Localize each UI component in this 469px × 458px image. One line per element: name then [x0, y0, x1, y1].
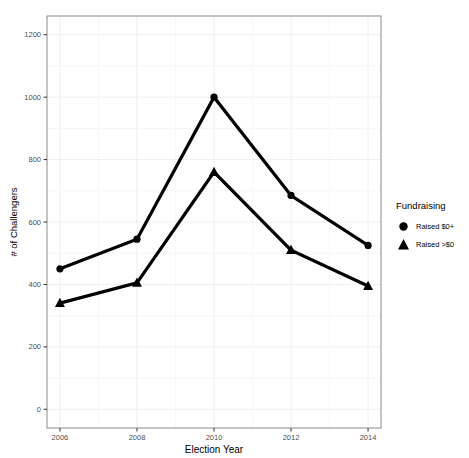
y-tick-label: 400 — [28, 280, 41, 289]
data-point-circle — [287, 192, 294, 199]
y-tick-label: 200 — [28, 342, 41, 351]
data-point-circle — [56, 265, 63, 272]
y-tick-label: 1200 — [24, 30, 41, 39]
x-axis-title: Election Year — [185, 444, 243, 455]
circle-marker-icon — [397, 220, 410, 233]
data-point-circle — [210, 94, 217, 101]
legend-item: Raised >$0 — [397, 238, 454, 251]
x-tick-label: 2012 — [283, 433, 300, 442]
data-point-circle — [364, 242, 371, 249]
y-axis-title: # of Challengers — [8, 187, 19, 256]
triangle-marker-icon — [397, 238, 410, 251]
legend-marker-shape — [399, 222, 407, 230]
legend-marker-shape — [398, 239, 409, 250]
legend-item-label: Raised >$0 — [416, 240, 454, 249]
x-tick-label: 2014 — [360, 433, 377, 442]
legend-item-label: Raised $0+ — [416, 222, 454, 231]
x-tick-label: 2006 — [52, 433, 69, 442]
x-tick-label: 2010 — [206, 433, 223, 442]
legend-items: Raised $0+Raised >$0 — [396, 220, 454, 251]
legend: Fundraising Raised $0+Raised >$0 — [396, 200, 454, 251]
y-tick-label: 1000 — [24, 93, 41, 102]
y-tick-label: 600 — [28, 218, 41, 227]
legend-item: Raised $0+ — [397, 220, 454, 233]
line-chart: 0200400600800100012002006200820102012201… — [0, 0, 469, 458]
data-point-circle — [133, 236, 140, 243]
x-tick-label: 2008 — [129, 433, 146, 442]
y-tick-label: 0 — [37, 405, 41, 414]
y-tick-label: 800 — [28, 155, 41, 164]
legend-title: Fundraising — [396, 200, 454, 211]
